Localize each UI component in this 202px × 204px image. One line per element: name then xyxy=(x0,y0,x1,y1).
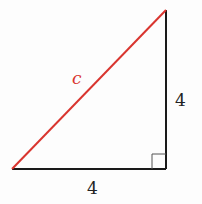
hypotenuse-label: c xyxy=(72,70,82,87)
vertical-leg-label: 4 xyxy=(175,92,186,109)
triangle-svg xyxy=(0,0,202,204)
horizontal-leg-label: 4 xyxy=(87,180,98,197)
hypotenuse xyxy=(12,10,166,169)
right-angle-marker xyxy=(152,154,166,169)
triangle-diagram: c 4 4 xyxy=(0,0,202,204)
